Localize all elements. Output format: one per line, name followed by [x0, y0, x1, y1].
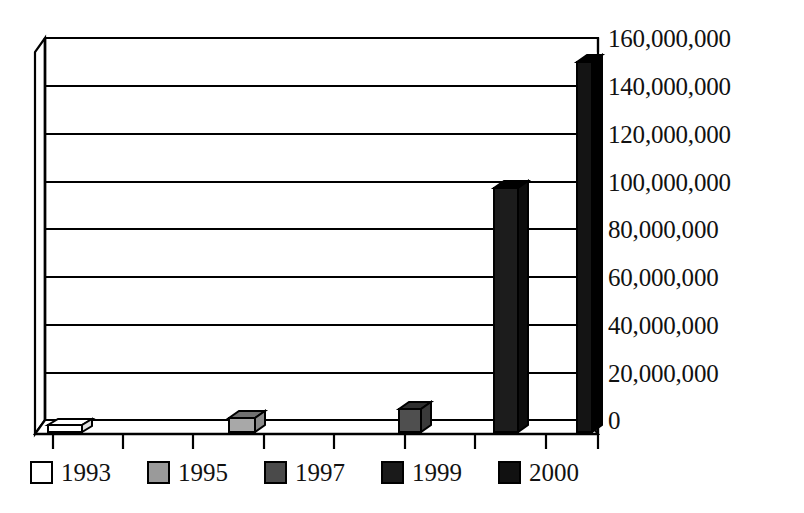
- legend-item-1997[interactable]: 1997: [264, 460, 345, 485]
- legend-item-1995[interactable]: 1995: [147, 460, 228, 485]
- chart-container: 160,000,000 140,000,000 120,000,000 100,…: [0, 0, 804, 513]
- x-axis-ticks: [53, 434, 598, 449]
- bar-2000[interactable]: [577, 55, 602, 432]
- y-axis-label-80000000: 80,000,000: [608, 217, 719, 242]
- bar-1995[interactable]: [229, 411, 265, 432]
- legend-swatch-2000: [498, 461, 521, 484]
- legend-swatch-1997: [264, 461, 287, 484]
- legend-item-1993[interactable]: 1993: [30, 460, 111, 485]
- bar-1997[interactable]: [399, 402, 431, 432]
- bar-1999[interactable]: [494, 181, 528, 432]
- plot-left-wall: [35, 38, 45, 434]
- legend-swatch-1993: [30, 461, 53, 484]
- y-axis-label-40000000: 40,000,000: [608, 313, 719, 338]
- legend-item-2000[interactable]: 2000: [498, 460, 579, 485]
- chart-legend: 1993 1995 1997 1999 2000: [30, 460, 615, 485]
- legend-label-1995: 1995: [178, 460, 228, 485]
- legend-label-2000: 2000: [529, 460, 579, 485]
- legend-label-1993: 1993: [61, 460, 111, 485]
- legend-label-1997: 1997: [295, 460, 345, 485]
- bar-1993[interactable]: [48, 419, 92, 432]
- y-axis-label-0: 0: [608, 408, 620, 433]
- y-axis-label-160000000: 160,000,000: [608, 26, 731, 51]
- y-axis-label-120000000: 120,000,000: [608, 122, 731, 147]
- y-axis-label-140000000: 140,000,000: [608, 74, 731, 99]
- legend-swatch-1999: [381, 461, 404, 484]
- y-axis-label-20000000: 20,000,000: [608, 361, 719, 386]
- legend-swatch-1995: [147, 461, 170, 484]
- legend-label-1999: 1999: [412, 460, 462, 485]
- legend-item-1999[interactable]: 1999: [381, 460, 462, 485]
- y-axis-label-100000000: 100,000,000: [608, 170, 731, 195]
- y-axis-label-60000000: 60,000,000: [608, 265, 719, 290]
